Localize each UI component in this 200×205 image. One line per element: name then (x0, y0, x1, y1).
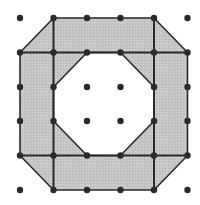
grid-dot (151, 187, 157, 193)
shaded-octagonal-ring (20, 18, 188, 190)
octagonal-ring-diagram (0, 0, 200, 205)
grid-dot (184, 118, 190, 124)
grid-dot (84, 49, 90, 55)
grid-dot (117, 118, 123, 124)
grid-dot (17, 84, 23, 90)
grid-dot (151, 118, 157, 124)
grid-dot (84, 15, 90, 21)
grid-dot (50, 118, 56, 124)
grid-dot (117, 15, 123, 21)
grid-dot (117, 152, 123, 158)
grid-dot (84, 118, 90, 124)
grid-dot (117, 49, 123, 55)
grid-dot (50, 49, 56, 55)
grid-dot (17, 152, 23, 158)
grid-dot (17, 118, 23, 124)
grid-dot (151, 152, 157, 158)
grid-dot (184, 152, 190, 158)
grid-dot (184, 187, 190, 193)
grid-dot (151, 84, 157, 90)
grid-dot (50, 84, 56, 90)
grid-dot (184, 84, 190, 90)
grid-dot (184, 49, 190, 55)
grid-dot (151, 15, 157, 21)
grid-dot (117, 84, 123, 90)
grid-dot (17, 187, 23, 193)
grid-dot (50, 152, 56, 158)
grid-dot (151, 49, 157, 55)
grid-dot (17, 49, 23, 55)
grid-dot (184, 15, 190, 21)
grid-dot (17, 15, 23, 21)
grid-dot (84, 187, 90, 193)
grid-dot (117, 187, 123, 193)
grid-dot (50, 15, 56, 21)
grid-dot (50, 187, 56, 193)
grid-dot (84, 152, 90, 158)
grid-dot (84, 84, 90, 90)
